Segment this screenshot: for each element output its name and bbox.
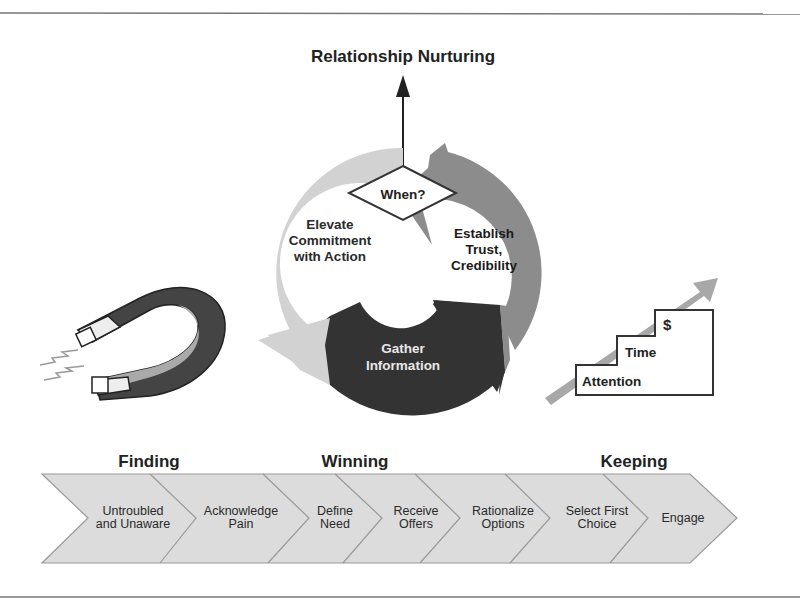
svg-text:Choice: Choice xyxy=(578,517,617,531)
decision-label: When? xyxy=(381,187,426,202)
step-receive: Receive Offers xyxy=(393,504,438,531)
svg-text:with Action: with Action xyxy=(293,249,366,264)
svg-text:Offers: Offers xyxy=(399,517,433,531)
svg-text:Commitment: Commitment xyxy=(289,233,372,248)
svg-text:Define: Define xyxy=(317,504,353,518)
label-elevate: Elevate Commitment with Action xyxy=(289,217,372,264)
svg-text:Elevate: Elevate xyxy=(306,217,354,232)
top-rule xyxy=(0,13,800,14)
svg-text:Rationalize: Rationalize xyxy=(472,504,534,518)
svg-text:Pain: Pain xyxy=(228,517,253,531)
stage-keeping: Keeping xyxy=(600,452,667,471)
title-relationship-nurturing: Relationship Nurturing xyxy=(311,47,495,66)
step-untroubled: Untroubled and Unaware xyxy=(96,504,170,531)
step-define: Define Need xyxy=(317,504,353,531)
svg-text:Gather: Gather xyxy=(381,341,425,356)
stairs-arrow-icon: Attention Time $ xyxy=(545,278,718,405)
svg-text:Information: Information xyxy=(366,358,440,373)
svg-text:and Unaware: and Unaware xyxy=(96,517,170,531)
stage-winning: Winning xyxy=(322,452,389,471)
svg-text:Untroubled: Untroubled xyxy=(102,504,163,518)
stage-finding: Finding xyxy=(118,452,179,471)
svg-text:Need: Need xyxy=(320,517,350,531)
svg-text:Credibility: Credibility xyxy=(451,258,518,273)
svg-text:Acknowledge: Acknowledge xyxy=(204,504,278,518)
step-attention: Attention xyxy=(582,374,641,389)
diagram-canvas: Relationship Nurturing When? Elevate Com… xyxy=(0,0,808,607)
svg-text:Select First: Select First xyxy=(566,504,629,518)
svg-text:Receive: Receive xyxy=(393,504,438,518)
svg-text:Establish: Establish xyxy=(454,226,514,241)
svg-text:Trust,: Trust, xyxy=(466,242,503,257)
cycle-diagram: When? Elevate Commitment with Action Est… xyxy=(258,143,542,416)
step-money: $ xyxy=(663,316,672,333)
step-time: Time xyxy=(625,345,657,360)
magnet-icon xyxy=(40,288,225,400)
step-engage: Engage xyxy=(661,511,704,525)
svg-text:Engage: Engage xyxy=(661,511,704,525)
svg-text:Options: Options xyxy=(481,517,524,531)
